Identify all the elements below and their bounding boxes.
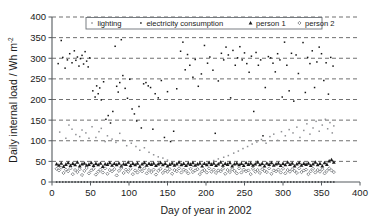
data-point	[158, 156, 160, 158]
data-point	[309, 63, 311, 65]
data-point	[246, 63, 248, 65]
data-point	[323, 80, 325, 82]
data-point	[232, 50, 234, 52]
x-tick-label-400: 400	[352, 187, 368, 198]
data-point	[268, 56, 270, 58]
data-point	[247, 146, 249, 148]
x-tick-label-100: 100	[121, 187, 137, 198]
data-point	[60, 40, 62, 42]
data-point	[135, 146, 137, 148]
data-point	[91, 126, 93, 128]
data-point	[223, 157, 225, 159]
y-axis-title-text: Daily internal load / Wh m	[7, 43, 19, 163]
legend-label-person-1: person 1	[256, 19, 286, 28]
data-point	[122, 140, 124, 142]
data-point	[112, 111, 114, 113]
data-point	[253, 111, 255, 113]
data-point	[260, 59, 262, 61]
data-point	[131, 142, 133, 144]
x-tick-label-150: 150	[160, 187, 176, 198]
data-point	[237, 57, 239, 59]
data-point	[150, 87, 152, 89]
data-point	[182, 41, 184, 43]
data-point	[223, 59, 225, 61]
data-point	[170, 141, 172, 143]
x-axis-title: Day of year in 2002	[160, 204, 251, 216]
data-point	[127, 98, 128, 100]
data-point	[105, 119, 107, 121]
data-point	[277, 53, 279, 55]
y-axis-title: Daily internal load / Wh m-2	[7, 37, 19, 163]
data-point	[329, 122, 331, 124]
data-point	[119, 82, 121, 84]
x-tick-label-350: 350	[314, 187, 330, 198]
x-axis-title-text: Day of year in 2002	[160, 204, 251, 216]
data-point	[85, 132, 87, 134]
data-point	[281, 96, 283, 98]
data-point	[244, 52, 246, 54]
data-point	[293, 100, 295, 102]
y-tick-label-250: 250	[30, 73, 46, 84]
data-point	[173, 131, 175, 133]
data-point	[273, 133, 275, 135]
data-point	[75, 134, 77, 136]
data-point	[269, 136, 271, 138]
data-point	[325, 62, 327, 64]
data-point	[327, 128, 329, 130]
data-point	[194, 59, 196, 61]
data-point	[141, 127, 143, 128]
data-point	[59, 131, 61, 133]
data-point	[306, 123, 308, 125]
data-point	[218, 158, 220, 160]
y-tick-label-350: 350	[30, 32, 46, 43]
data-point	[214, 133, 216, 135]
data-point	[256, 141, 258, 143]
data-point	[134, 113, 136, 115]
data-point	[77, 56, 79, 58]
data-point	[68, 124, 70, 126]
data-point	[261, 139, 263, 141]
data-point	[154, 93, 156, 95]
data-point	[296, 126, 298, 128]
data-point	[152, 128, 154, 130]
data-point	[67, 59, 69, 61]
y-tick-label-150: 150	[30, 115, 46, 126]
x-tick-label-300: 300	[275, 187, 291, 198]
data-point	[258, 65, 260, 67]
data-point	[98, 131, 100, 133]
y-tick-label-0: 0	[41, 176, 46, 187]
data-point	[295, 54, 297, 56]
data-point	[333, 125, 335, 127]
data-point	[312, 50, 314, 52]
data-point	[164, 137, 166, 139]
data-point	[140, 22, 142, 24]
data-point	[101, 99, 103, 101]
x-tick-label-250: 250	[237, 187, 253, 198]
data-point	[86, 60, 88, 62]
data-point	[314, 87, 316, 89]
data-point	[97, 93, 99, 95]
data-point	[92, 90, 94, 92]
data-point	[79, 136, 81, 138]
data-point	[107, 135, 109, 137]
data-point	[101, 128, 103, 130]
data-point	[71, 62, 73, 64]
data-point	[221, 53, 223, 55]
data-point	[209, 56, 211, 58]
data-point	[201, 73, 203, 75]
data-point	[158, 97, 160, 99]
data-point	[131, 108, 133, 110]
data-point	[248, 72, 250, 74]
data-point	[189, 65, 191, 67]
data-point	[272, 62, 274, 64]
data-point	[218, 80, 220, 82]
data-point	[288, 90, 290, 92]
data-point	[322, 124, 324, 126]
y-tick-label-300: 300	[30, 53, 46, 64]
data-point	[233, 152, 235, 154]
y-tick-label-100: 100	[30, 135, 46, 146]
data-point	[180, 50, 182, 52]
data-point	[88, 138, 90, 140]
data-point	[318, 131, 320, 133]
data-point	[161, 80, 163, 82]
